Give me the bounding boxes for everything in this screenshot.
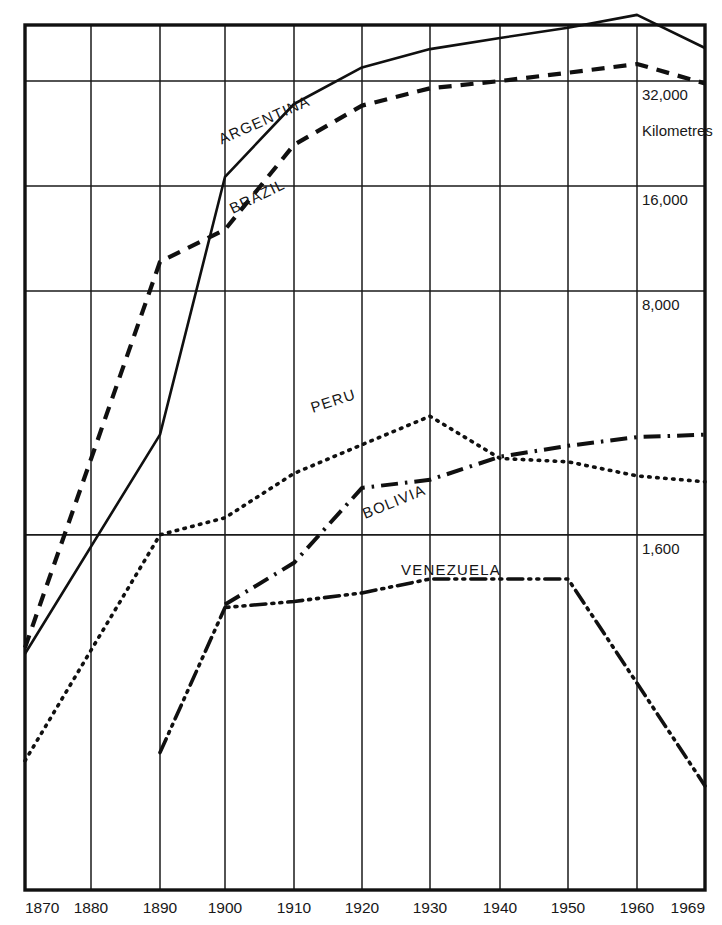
y-tick-label: 16,000 <box>642 191 688 208</box>
x-tick-label: 1950 <box>551 899 586 916</box>
y-axis-units-label: Kilometres <box>642 122 713 139</box>
chart-canvas: ARGENTINABRAZILPERUBOLIVIAVENEZUELA 32,0… <box>0 0 722 925</box>
railway-length-chart: ARGENTINABRAZILPERUBOLIVIAVENEZUELA 32,0… <box>0 0 722 925</box>
x-tick-label: 1910 <box>277 899 312 916</box>
y-tick-label: 32,000 <box>642 86 688 103</box>
plot-background <box>25 25 705 890</box>
x-tick-label: 1930 <box>413 899 448 916</box>
x-axis-tick-labels: 1870188018901900191019201930194019501960… <box>25 899 705 916</box>
x-tick-label: 1920 <box>345 899 380 916</box>
y-tick-label: 8,000 <box>642 296 680 313</box>
x-tick-label: 1969 <box>671 899 705 916</box>
y-tick-label: 1,600 <box>642 540 680 557</box>
x-tick-label: 1870 <box>25 899 60 916</box>
x-tick-label: 1880 <box>74 899 109 916</box>
series-label-venezuela: VENEZUELA <box>401 561 501 578</box>
x-tick-label: 1940 <box>483 899 518 916</box>
x-tick-label: 1900 <box>208 899 243 916</box>
x-tick-label: 1960 <box>620 899 655 916</box>
x-tick-label: 1890 <box>143 899 178 916</box>
